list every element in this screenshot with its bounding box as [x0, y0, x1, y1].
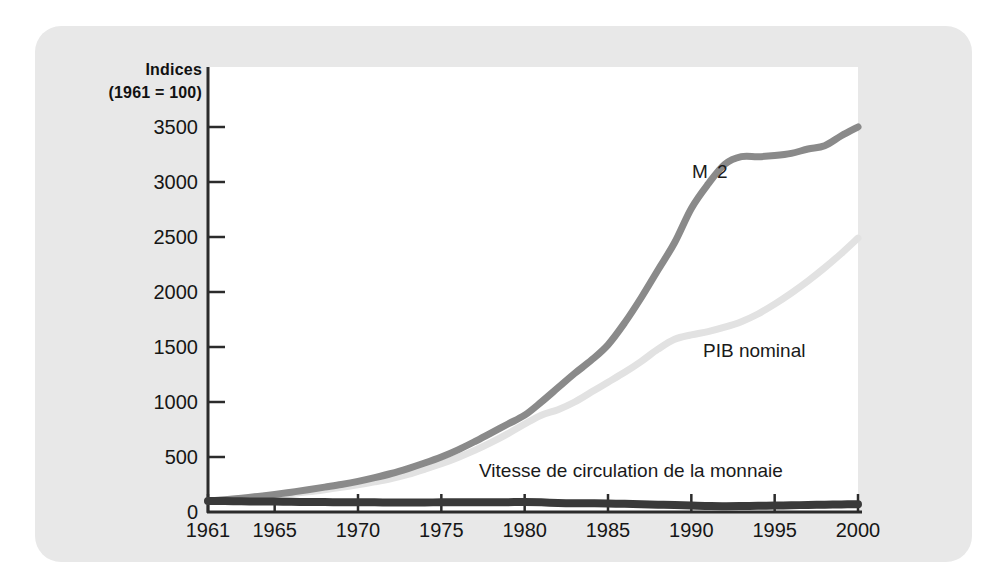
y-axis-ticks — [208, 127, 225, 457]
figure-root: Indices (1961 = 100) 0500100015002000250… — [0, 0, 1005, 586]
x-tick-label: 1995 — [735, 519, 815, 542]
x-tick-label: 1990 — [651, 519, 731, 542]
y-tick-label: 3500 — [112, 116, 198, 139]
series-label-m2: M 2 — [692, 161, 730, 183]
x-tick-label: 1975 — [401, 519, 481, 542]
x-tick-label: 2000 — [818, 519, 898, 542]
y-tick-label: 1500 — [112, 336, 198, 359]
y-tick-label: 500 — [112, 446, 198, 469]
x-tick-label: 1985 — [568, 519, 648, 542]
axis-lines — [207, 67, 862, 513]
y-tick-label: 2500 — [112, 226, 198, 249]
y-tick-label: 3000 — [112, 171, 198, 194]
y-tick-label: 1000 — [112, 391, 198, 414]
x-tick-label: 1970 — [318, 519, 398, 542]
y-tick-label: 2000 — [112, 281, 198, 304]
series-line-velocity — [208, 501, 858, 506]
series-label-velocity: Vitesse de circulation de la monnaie — [479, 460, 783, 482]
x-tick-label: 1980 — [485, 519, 565, 542]
x-tick-label: 1965 — [235, 519, 315, 542]
series-label-pib: PIB nominal — [703, 340, 805, 362]
